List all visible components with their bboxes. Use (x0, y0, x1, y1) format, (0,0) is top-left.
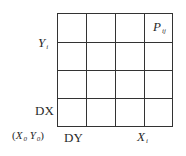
origin-y-main: Y (30, 129, 36, 141)
y-axis-label-yi: Yi (38, 36, 48, 54)
x-axis-label-xi: Xi (137, 130, 148, 148)
x-axis-label-main: X (137, 129, 145, 144)
grid-horizontal-line-2 (58, 70, 172, 71)
grid-horizontal-line-1 (58, 42, 172, 43)
cell-label-main: P (153, 19, 161, 34)
y-axis-label-subscript: i (46, 43, 48, 51)
cell-label-pij: Pij (153, 20, 166, 38)
dy-label: DY (64, 131, 83, 144)
x-axis-label-subscript: i (146, 137, 148, 145)
dx-label: DX (35, 104, 54, 117)
y-axis-label-main: Y (38, 35, 45, 50)
origin-x-main: X (16, 129, 23, 141)
grid-horizontal-line-3 (58, 98, 172, 99)
cell-label-subscript: ij (162, 27, 166, 35)
origin-x-subscript: 0 (23, 135, 27, 143)
origin-close-paren: ) (40, 129, 44, 141)
origin-label: (X0 Y0) (12, 129, 44, 146)
